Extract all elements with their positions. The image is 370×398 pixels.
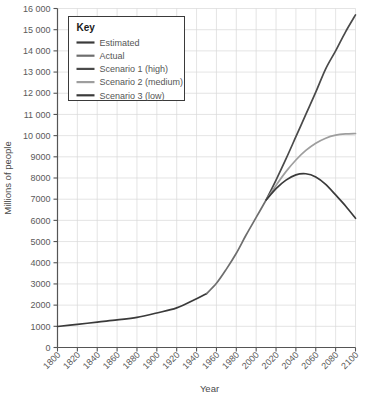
legend-entry-label: Scenario 2 (medium) <box>100 77 184 87</box>
x-axis-tick-label: 1960 <box>200 350 221 371</box>
y-axis-tick-label: 8000 <box>30 173 50 183</box>
x-axis-title: Year <box>200 383 219 394</box>
x-axis-tick-label: 1860 <box>101 350 122 371</box>
y-axis-tick-label: 6000 <box>30 216 50 226</box>
legend-entry-label: Scenario 1 (high) <box>100 64 169 74</box>
y-axis-tick-label: 16 000 <box>23 4 51 14</box>
y-axis-tick-label: 3000 <box>30 279 50 289</box>
y-axis-tick-label: 12 000 <box>23 88 51 98</box>
y-axis-tick-label: 11 000 <box>24 110 51 120</box>
legend-entry-label: Scenario 3 (low) <box>100 91 165 101</box>
x-axis-tick-label: 1840 <box>81 350 102 371</box>
y-axis-tick-label: 1000 <box>30 322 50 332</box>
chart-canvas: 010002000300040005000600070008000900010 … <box>0 0 370 398</box>
legend-layer: KeyEstimatedActualScenario 1 (high)Scena… <box>69 17 185 101</box>
x-axis-tick-label: 2000 <box>240 350 261 371</box>
x-axis-tick-label: 1800 <box>41 350 62 371</box>
y-axis-tick-label: 15 000 <box>23 25 51 35</box>
legend-title: Key <box>77 22 96 33</box>
x-axis-tick-label: 2080 <box>319 350 340 371</box>
y-axis-tick-label: 14 000 <box>23 46 51 56</box>
x-axis-tick-label: 1820 <box>61 350 82 371</box>
x-axis-tick-label: 2100 <box>339 350 360 371</box>
y-axis-tick-label: 2000 <box>30 300 50 310</box>
series-line <box>266 15 355 200</box>
population-growth-chart: 010002000300040005000600070008000900010 … <box>0 0 370 398</box>
legend-entry-label: Actual <box>100 51 125 61</box>
x-axis-tick-label: 2040 <box>280 350 301 371</box>
y-axis-tick-label: 13 000 <box>23 67 51 77</box>
y-axis-tick-label: 9000 <box>30 152 50 162</box>
y-axis-tick-label: 10 000 <box>23 131 51 141</box>
legend-entry-label: Estimated <box>100 38 140 48</box>
y-axis-tick-label: 5000 <box>30 237 50 247</box>
x-axis-tick-label: 1980 <box>220 350 241 371</box>
y-axis-title: Millions of people <box>2 141 13 214</box>
x-axis-tick-label: 1880 <box>121 350 142 371</box>
y-axis-tick-label: 7000 <box>30 194 50 204</box>
x-axis-tick-label: 1920 <box>160 350 181 371</box>
x-axis-tick-label: 1900 <box>141 350 162 371</box>
y-axis-tick-label: 0 <box>45 343 50 353</box>
x-axis-tick-label: 2060 <box>299 350 320 371</box>
x-axis-tick-label: 2020 <box>260 350 281 371</box>
series-line <box>58 294 207 327</box>
series-line <box>266 134 355 201</box>
x-axis-tick-label: 1940 <box>180 350 201 371</box>
y-axis-tick-label: 4000 <box>30 258 50 268</box>
